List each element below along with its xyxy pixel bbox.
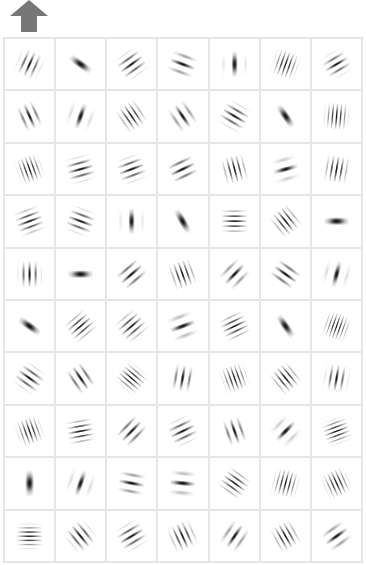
gabor-cell[interactable] [56,144,105,194]
gabor-filter-grid [3,37,363,563]
gabor-cell[interactable] [210,406,259,456]
gabor-cell[interactable] [5,353,54,403]
gabor-cell[interactable] [56,406,105,456]
gabor-cell[interactable] [158,406,207,456]
gabor-patch-icon [5,249,54,299]
gabor-cell[interactable] [158,144,207,194]
gabor-patch-icon [56,249,105,299]
gabor-cell[interactable] [312,458,361,508]
gabor-patch-icon [261,353,310,403]
gabor-patch-icon [210,353,259,403]
gabor-cell[interactable] [5,91,54,141]
gabor-cell[interactable] [312,406,361,456]
gabor-patch-icon [261,39,310,89]
gabor-cell[interactable] [5,249,54,299]
gabor-cell[interactable] [107,406,156,456]
gabor-patch-icon [312,144,361,194]
gabor-patch-icon [158,301,207,351]
gabor-cell[interactable] [56,353,105,403]
gabor-cell[interactable] [107,511,156,561]
gabor-cell[interactable] [261,458,310,508]
gabor-cell[interactable] [158,301,207,351]
gabor-cell[interactable] [158,511,207,561]
gabor-cell[interactable] [158,196,207,246]
gabor-patch-icon [107,196,156,246]
up-arrow-button[interactable] [10,0,48,32]
gabor-cell[interactable] [56,39,105,89]
gabor-cell[interactable] [158,249,207,299]
gabor-cell[interactable] [56,249,105,299]
gabor-cell[interactable] [107,301,156,351]
gabor-patch-icon [56,144,105,194]
gabor-patch-icon [5,353,54,403]
gabor-cell[interactable] [158,39,207,89]
gabor-cell[interactable] [261,196,310,246]
gabor-patch-icon [210,511,259,561]
gabor-cell[interactable] [107,144,156,194]
gabor-cell[interactable] [261,353,310,403]
gabor-patch-icon [261,301,310,351]
gabor-cell[interactable] [5,458,54,508]
gabor-cell[interactable] [56,196,105,246]
gabor-patch-icon [210,458,259,508]
gabor-cell[interactable] [5,196,54,246]
gabor-patch-icon [158,91,207,141]
gabor-cell[interactable] [107,249,156,299]
gabor-patch-icon [312,458,361,508]
gabor-cell[interactable] [261,91,310,141]
gabor-cell[interactable] [210,511,259,561]
gabor-patch-icon [5,144,54,194]
gabor-cell[interactable] [312,249,361,299]
gabor-patch-icon [107,39,156,89]
gabor-cell[interactable] [5,39,54,89]
gabor-cell[interactable] [56,301,105,351]
gabor-cell[interactable] [107,196,156,246]
gabor-cell[interactable] [210,144,259,194]
gabor-cell[interactable] [158,458,207,508]
gabor-patch-icon [210,196,259,246]
gabor-cell[interactable] [261,406,310,456]
gabor-cell[interactable] [312,39,361,89]
gabor-patch-icon [56,196,105,246]
gabor-cell[interactable] [107,39,156,89]
gabor-cell[interactable] [312,511,361,561]
gabor-patch-icon [158,249,207,299]
gabor-cell[interactable] [312,91,361,141]
gabor-cell[interactable] [261,249,310,299]
gabor-patch-icon [261,196,310,246]
gabor-cell[interactable] [56,511,105,561]
gabor-cell[interactable] [210,353,259,403]
gabor-cell[interactable] [5,301,54,351]
gabor-cell[interactable] [210,301,259,351]
gabor-cell[interactable] [312,196,361,246]
gabor-cell[interactable] [261,144,310,194]
gabor-patch-icon [312,353,361,403]
gabor-cell[interactable] [5,511,54,561]
gabor-cell[interactable] [107,458,156,508]
gabor-cell[interactable] [312,353,361,403]
gabor-cell[interactable] [56,458,105,508]
gabor-cell[interactable] [210,249,259,299]
gabor-patch-icon [261,91,310,141]
gabor-cell[interactable] [5,406,54,456]
gabor-patch-icon [210,249,259,299]
gabor-cell[interactable] [261,301,310,351]
gabor-cell[interactable] [158,353,207,403]
gabor-cell[interactable] [210,458,259,508]
gabor-cell[interactable] [158,91,207,141]
gabor-cell[interactable] [312,301,361,351]
gabor-cell[interactable] [312,144,361,194]
gabor-cell[interactable] [261,511,310,561]
gabor-cell[interactable] [210,196,259,246]
gabor-cell[interactable] [107,91,156,141]
gabor-cell[interactable] [5,144,54,194]
gabor-patch-icon [210,39,259,89]
gabor-cell[interactable] [210,39,259,89]
gabor-cell[interactable] [210,91,259,141]
gabor-patch-icon [107,144,156,194]
gabor-patch-icon [261,511,310,561]
gabor-cell[interactable] [261,39,310,89]
gabor-cell[interactable] [56,91,105,141]
gabor-patch-icon [56,458,105,508]
gabor-cell[interactable] [107,353,156,403]
